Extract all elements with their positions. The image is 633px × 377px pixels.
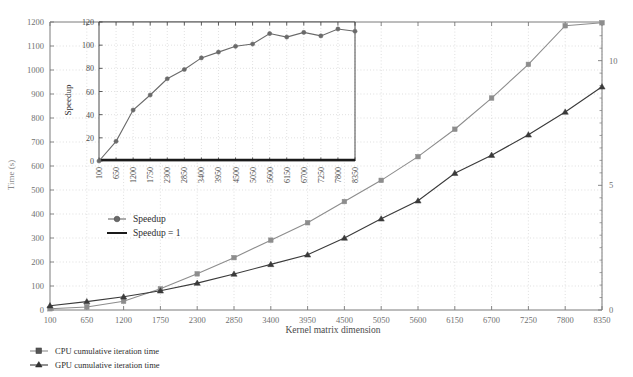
- cpu-series-marker: [379, 178, 384, 183]
- inset-x-tick-label: 7800: [334, 167, 343, 183]
- speedup-series-marker: [97, 159, 101, 163]
- cpu-series-marker: [232, 255, 237, 260]
- speedup-series-marker: [199, 56, 203, 60]
- speedup-series-marker: [319, 34, 323, 38]
- cpu-series-marker: [563, 23, 568, 28]
- inset-x-tick-label: 2300: [163, 167, 172, 183]
- inset-x-tick-label: 6700: [300, 167, 309, 183]
- speedup-series-marker: [165, 77, 169, 81]
- legend-speedup-one-label: Speedup = 1: [133, 228, 181, 238]
- cpu-series-marker: [526, 62, 531, 67]
- inset-x-tick-label: 100: [95, 167, 104, 179]
- x-tick-label: 8350: [594, 315, 611, 325]
- x-tick-label: 650: [80, 315, 93, 325]
- x-tick-label: 3400: [262, 315, 279, 325]
- cpu-series-marker: [269, 238, 274, 243]
- cpu-series-marker: [195, 272, 200, 277]
- y-tick-label-left: 1100: [27, 41, 44, 51]
- speedup-series-marker: [285, 35, 289, 39]
- y-tick-label-left: 400: [31, 209, 44, 219]
- inset-x-tick-label: 3950: [214, 167, 223, 183]
- inset-x-tick-label: 2850: [180, 167, 189, 183]
- speedup-series-marker: [336, 27, 340, 31]
- inset-x-tick-label: 5050: [249, 167, 258, 183]
- x-tick-label: 6150: [446, 315, 463, 325]
- y-axis-label-left: Time (s): [6, 160, 16, 190]
- legend-speedup-marker-icon: [114, 216, 120, 222]
- inset-chart: 020406080100120 100650120017502300285034…: [63, 18, 360, 183]
- inset-x-tick-label: 6150: [283, 167, 292, 183]
- x-tick-label: 7800: [557, 315, 574, 325]
- legend-cpu-label: CPU cumulative iteration time: [55, 346, 159, 356]
- x-tick-label: 3950: [299, 315, 316, 325]
- y-tick-label-left: 200: [31, 257, 44, 267]
- y-tick-label-left: 1200: [27, 17, 44, 27]
- inset-x-tick-label: 650: [112, 167, 121, 179]
- speedup-series-marker: [148, 93, 152, 97]
- y-tick-label-right: 10: [609, 56, 618, 66]
- y-tick-label-left: 700: [31, 137, 44, 147]
- y-tick-label-left: 500: [31, 185, 44, 195]
- cpu-series-marker: [453, 127, 458, 132]
- speedup-series-marker: [182, 67, 186, 71]
- inset-x-tick-label: 7250: [317, 167, 326, 183]
- legend-gpu-label: GPU cumulative iteration time: [55, 360, 160, 370]
- inset-x-tick-label: 8350: [351, 167, 360, 183]
- inset-x-tick-label: 1200: [129, 167, 138, 183]
- speedup-series-marker: [216, 50, 220, 54]
- inset-y-tick-label: 20: [86, 134, 94, 143]
- y-tick-label-left: 300: [31, 233, 44, 243]
- inset-y-tick-label: 60: [86, 88, 94, 97]
- inset-y-tick-label: 0: [90, 157, 94, 166]
- chart-svg: 0100200300400500600700800900100011001200…: [0, 0, 633, 377]
- x-tick-label: 2850: [226, 315, 243, 325]
- x-tick-label: 2300: [189, 315, 206, 325]
- cpu-series-marker: [121, 299, 126, 304]
- x-tick-label: 100: [44, 315, 57, 325]
- y-tick-label-right: 0: [609, 305, 613, 315]
- cpu-series-marker: [489, 96, 494, 101]
- y-tick-label-left: 1000: [27, 65, 44, 75]
- speedup-series-marker: [268, 31, 272, 35]
- inset-y-tick-label: 80: [86, 64, 94, 73]
- y-tick-label-left: 600: [31, 161, 44, 171]
- speedup-series-marker: [131, 108, 135, 112]
- x-tick-label: 5600: [410, 315, 427, 325]
- inset-x-tick-label: 1750: [146, 167, 155, 183]
- cpu-series-marker: [342, 199, 347, 204]
- inset-y-axis-label: Speedup: [63, 84, 73, 115]
- y-tick-label-right: 5: [609, 180, 613, 190]
- figure-container: 0100200300400500600700800900100011001200…: [0, 0, 633, 377]
- x-tick-label: 4500: [336, 315, 353, 325]
- speedup-series-marker: [233, 44, 237, 48]
- cpu-series-marker: [305, 220, 310, 225]
- inset-y-tick-label: 100: [82, 41, 94, 50]
- x-axis-label: Kernel matrix dimension: [286, 325, 381, 335]
- inset-y-tick-label: 40: [86, 111, 94, 120]
- inset-x-tick-label: 4500: [232, 167, 241, 183]
- cpu-series-marker: [416, 154, 421, 159]
- speedup-series-marker: [353, 29, 357, 33]
- y-tick-label-left: 900: [31, 89, 44, 99]
- inset-x-tick-label: 5600: [266, 167, 275, 183]
- inset-background: [99, 22, 355, 161]
- y-tick-label-left: 0: [40, 305, 44, 315]
- x-tick-label: 1750: [152, 315, 169, 325]
- legend-speedup-label: Speedup: [133, 214, 166, 224]
- x-tick-label: 6700: [483, 315, 500, 325]
- inset-y-tick-label: 120: [82, 18, 94, 27]
- y-tick-label-left: 800: [31, 113, 44, 123]
- inset-x-tick-label: 3400: [197, 167, 206, 183]
- speedup-series-marker: [302, 30, 306, 34]
- legend-cpu-square-icon: [36, 348, 42, 354]
- y-tick-label-left: 100: [31, 281, 44, 291]
- x-tick-label: 5050: [373, 315, 390, 325]
- x-tick-label: 7250: [520, 315, 537, 325]
- x-tick-label: 1200: [115, 315, 132, 325]
- speedup-series-marker: [114, 139, 118, 143]
- cpu-series-marker: [85, 305, 90, 310]
- speedup-series-marker: [251, 42, 255, 46]
- cpu-series-marker: [600, 20, 605, 25]
